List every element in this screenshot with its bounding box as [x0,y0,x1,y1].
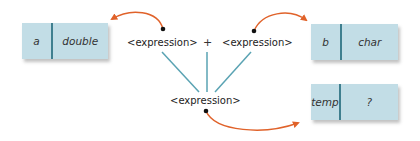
variable-type: double [53,23,109,59]
variable-box-b: b char [311,24,398,60]
tree-line-right [215,52,251,92]
dot-left-expression [161,27,166,32]
variable-box-a: a double [22,23,108,59]
arrow-left-to-a [112,12,163,29]
left-expression: <expression> [127,37,198,48]
tree-line-left [162,52,199,92]
variable-box-temp: temp ? [311,84,398,120]
variable-name: b [311,24,340,60]
variable-type: char [342,24,399,60]
right-expression: <expression> [222,37,293,48]
dot-result-expression [204,109,209,114]
variable-name: a [22,23,51,59]
arrow-right-to-b [254,13,306,31]
dot-right-expression [252,29,257,34]
variable-type: ? [341,84,399,120]
result-expression: <expression> [170,95,241,106]
arrow-result-to-temp [206,111,298,130]
plus-operator: + [203,36,212,49]
variable-name: temp [311,84,339,120]
